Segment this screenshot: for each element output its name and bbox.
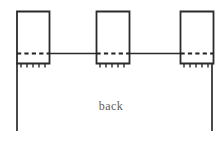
back-piece-diagram (0, 0, 222, 141)
figure-root: back (0, 0, 222, 141)
diagram-background (0, 0, 222, 141)
